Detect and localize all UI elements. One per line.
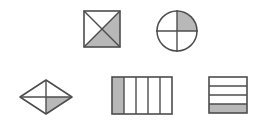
rect-vertical-strip-1-shaded	[112, 77, 124, 114]
square-diagonals-svg	[82, 9, 122, 49]
shape-square-diagonals	[82, 9, 122, 49]
shape-rhombus-quarters	[18, 78, 74, 116]
shape-rect-vertical-fifths	[110, 75, 174, 116]
rhombus-quarters-svg	[18, 78, 74, 116]
rect-vertical-svg	[110, 75, 174, 116]
circle-quarters-svg	[155, 9, 199, 53]
fraction-shapes-figure	[0, 0, 261, 125]
rect-horizontal-svg	[207, 75, 249, 115]
rhombus-quarters-lines	[20, 80, 72, 114]
shape-circle-quarters	[155, 9, 199, 53]
circle-quarters-lines	[156, 10, 198, 52]
shape-rect-horizontal-quarters	[207, 75, 249, 115]
rect-horizontal-band-4-shaded	[209, 104, 247, 113]
